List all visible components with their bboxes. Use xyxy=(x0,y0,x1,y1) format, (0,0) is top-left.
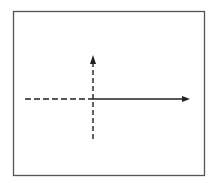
axes-diagram xyxy=(0,0,214,183)
frame xyxy=(14,12,205,176)
